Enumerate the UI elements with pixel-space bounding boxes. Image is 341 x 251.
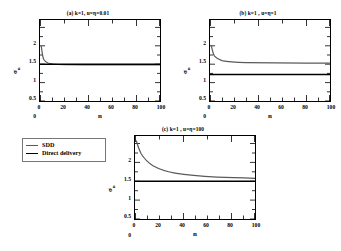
panel-c-ylabel-text: σ (106, 188, 114, 192)
panel-a-ytick-0: 0 (22, 113, 36, 119)
panel-b-yticks (210, 27, 330, 101)
panel-b-plot-area (209, 19, 331, 102)
panel-b-ytick-1p5: 1.5 (190, 58, 206, 64)
panel-a-xtick-80: 80 (127, 104, 143, 110)
panel-c: (c) k=1 , u=η=100 σn (103, 126, 263, 244)
panel-c-xlabel: n (134, 230, 256, 238)
panel-c-ytick-0: 0 (117, 232, 131, 238)
panel-a-ytick-1p5: 1.5 (20, 58, 36, 64)
panel-b-ylabel-text: σ (181, 70, 189, 74)
panel-b-xtick-0: 0 (201, 104, 217, 110)
panel-c-ytick-0p5: 0.5 (115, 213, 131, 219)
panel-b-ytick-2: 2 (192, 40, 206, 46)
panel-a-svg (40, 20, 160, 101)
panel-a-xtick-0: 0 (31, 104, 47, 110)
panel-b-xtick-40: 40 (249, 104, 265, 110)
panel-b-ytick-1: 1 (192, 77, 206, 83)
panel-a-title: (a) k=1, u=η=0.01 (8, 10, 168, 16)
panel-b-xtick-60: 60 (273, 104, 289, 110)
legend-entry-direct-delivery[interactable]: Direct delivery (26, 149, 101, 157)
legend-swatch-direct-delivery (26, 153, 38, 154)
panel-c-title: (c) k=1 , u=η=100 (103, 126, 263, 132)
legend-label-direct-delivery: Direct delivery (42, 149, 81, 157)
panel-a-ylabel-sub: n (16, 68, 21, 71)
panel-a-xtick-20: 20 (55, 104, 71, 110)
panel-c-xticks-top (136, 136, 255, 142)
panel-a: (a) k=1, u=η=0.01 σn (8, 10, 168, 125)
legend-entry-sdd[interactable]: SDD (26, 141, 101, 149)
panel-a-ytick-2: 2 (22, 40, 36, 46)
panel-b-title: (b) k=1 , u=η=1 (178, 10, 338, 16)
panel-c-xtick-40: 40 (174, 222, 190, 228)
panel-c-plot-area (134, 135, 256, 220)
panel-c-ylabel-sub: n (111, 186, 116, 189)
legend-swatch-sdd (26, 145, 38, 146)
legend-label-sdd: SDD (42, 141, 54, 149)
panel-a-ytick-1: 1 (22, 77, 36, 83)
panel-b-xticks-bottom (211, 95, 330, 101)
panel-b-ytick-0p5: 0.5 (190, 95, 206, 101)
panel-c-ytick-2: 2 (117, 157, 131, 163)
panel-b-xticks-top (211, 20, 330, 26)
panel-c-ytick-1: 1 (117, 195, 131, 201)
panel-c-xtick-60: 60 (198, 222, 214, 228)
panel-a-ytick-0p5: 0.5 (20, 95, 36, 101)
panel-b-xlabel: n (209, 112, 331, 120)
panel-a-series-sdd (41, 46, 160, 65)
panel-b: (b) k=1 , u=η=1 σn (178, 10, 338, 125)
panel-a-xtick-40: 40 (79, 104, 95, 110)
panel-c-ytick-1p5: 1.5 (115, 176, 131, 182)
panel-b-ylabel-sub: n (186, 68, 191, 71)
panel-b-ytick-0: 0 (192, 113, 206, 119)
panel-c-xtick-20: 20 (150, 222, 166, 228)
panel-b-xtick-100: 100 (322, 104, 340, 110)
panel-b-svg (210, 20, 330, 101)
panel-c-xtick-80: 80 (222, 222, 238, 228)
panel-a-xlabel: n (39, 112, 161, 120)
panel-b-xtick-80: 80 (297, 104, 313, 110)
panel-a-xticks-bottom (41, 95, 160, 101)
panel-c-xtick-0: 0 (126, 222, 142, 228)
panel-c-series-sdd (136, 141, 255, 179)
panel-a-ylabel-text: σ (11, 70, 19, 74)
panel-c-xticks-bottom (136, 213, 255, 219)
panel-b-xtick-20: 20 (225, 104, 241, 110)
panel-a-plot-area (39, 19, 161, 102)
panel-a-xtick-100: 100 (152, 104, 170, 110)
plot-legend[interactable]: SDD Direct delivery (22, 138, 106, 162)
panel-a-xticks-top (41, 20, 160, 26)
panel-c-xtick-100: 100 (247, 222, 265, 228)
panel-b-series-sdd (211, 45, 330, 63)
panel-a-xtick-60: 60 (103, 104, 119, 110)
panel-c-svg (135, 136, 255, 219)
